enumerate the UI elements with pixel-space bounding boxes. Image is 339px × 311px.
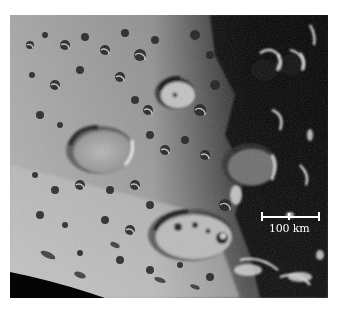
scale-bar-line [261, 216, 319, 218]
lunar-surface-photo: 100 km [10, 15, 328, 298]
scale-bar-tick-right [318, 212, 320, 221]
scale-bar-label: 100 km [269, 223, 309, 235]
scale-bar-tick-middle [288, 213, 290, 220]
crater-terrain [10, 15, 328, 298]
scale-bar: 100 km [261, 212, 321, 242]
scale-bar-tick-left [261, 212, 263, 221]
